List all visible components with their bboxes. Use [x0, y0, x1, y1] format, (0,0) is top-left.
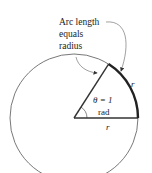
base-radius-label: r: [106, 122, 110, 132]
callout-arrow-to-radius: [76, 57, 97, 73]
callout-line-2: equals: [59, 29, 84, 39]
radian-diagram: Arc length equals radius θ = 1 rad r r: [0, 0, 152, 173]
angle-label: θ = 1: [93, 95, 113, 105]
angle-unit-label: rad: [98, 107, 110, 117]
highlighted-arc: [109, 64, 138, 118]
callout-line-1: Arc length: [59, 17, 100, 27]
arc-radius-label: r: [131, 79, 135, 89]
angle-arc-marker: [81, 107, 87, 118]
callout-line-3: radius: [59, 41, 83, 51]
